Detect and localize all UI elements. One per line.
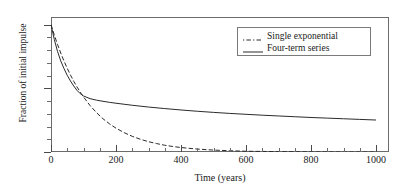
legend-item-four-term-series: Four-term series — [242, 42, 370, 54]
x-tick-label: 600 — [216, 155, 276, 165]
x-tick-label: 400 — [151, 155, 211, 165]
x-minor-tick — [214, 148, 215, 152]
x-minor-tick — [360, 148, 361, 152]
legend-swatch-dash-dot-icon — [242, 31, 264, 41]
x-major-tick — [51, 145, 52, 152]
x-major-tick — [376, 145, 377, 152]
x-minor-tick — [295, 148, 296, 152]
x-tick-label: 800 — [281, 155, 341, 165]
x-minor-tick — [327, 148, 328, 152]
x-minor-tick — [197, 148, 198, 152]
x-minor-tick — [230, 148, 231, 152]
x-major-tick — [181, 145, 182, 152]
x-tick-label: 1000 — [346, 155, 406, 165]
x-tick-label: 200 — [86, 155, 146, 165]
legend-swatch-solid-icon — [242, 43, 264, 53]
x-minor-tick — [279, 148, 280, 152]
legend-item-single-exponential: Single exponential — [242, 30, 370, 42]
x-minor-tick — [67, 148, 68, 152]
x-major-tick — [246, 145, 247, 152]
x-minor-tick — [149, 148, 150, 152]
chart-figure: 00.51.0 Fraction of initial impulse 0200… — [0, 0, 406, 194]
x-tick-label: 0 — [21, 155, 81, 165]
x-major-tick — [311, 145, 312, 152]
legend-label: Four-term series — [264, 43, 329, 53]
x-major-tick — [116, 145, 117, 152]
x-minor-tick — [262, 148, 263, 152]
x-minor-tick — [100, 148, 101, 152]
legend: Single exponential Four-term series — [237, 27, 371, 56]
x-axis-title: Time (years) — [51, 172, 389, 183]
legend-label: Single exponential — [264, 31, 338, 41]
x-minor-tick — [132, 148, 133, 152]
x-minor-tick — [84, 148, 85, 152]
x-minor-tick — [165, 148, 166, 152]
x-minor-tick — [344, 148, 345, 152]
